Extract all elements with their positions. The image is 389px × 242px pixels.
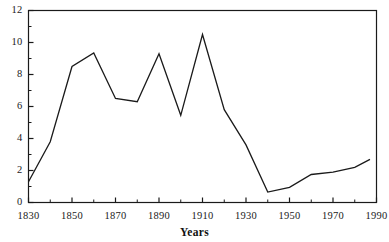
y-tick-label: 10 [12, 37, 23, 48]
y-tick-label: 12 [12, 5, 23, 16]
x-tick-label: 1830 [7, 211, 51, 222]
y-tick-label: 6 [17, 101, 22, 112]
x-axis-title: Years [0, 226, 389, 238]
chart-background [0, 0, 389, 242]
x-tick-label: 1850 [50, 211, 94, 222]
y-tick-label: 0 [17, 197, 22, 208]
x-tick-label: 1990 [355, 211, 389, 222]
x-tick-label: 1950 [268, 211, 312, 222]
x-tick-label: 1890 [137, 211, 181, 222]
x-tick-label: 1870 [94, 211, 138, 222]
x-tick-label: 1930 [224, 211, 268, 222]
y-tick-label: 4 [17, 133, 22, 144]
y-tick-label: 8 [17, 69, 22, 80]
x-tick-label: 1910 [181, 211, 225, 222]
x-tick-label: 1970 [311, 211, 355, 222]
line-chart: 024681012 183018501870189019101930195019… [0, 0, 389, 242]
plot-area [0, 0, 389, 242]
y-tick-label: 2 [17, 165, 22, 176]
